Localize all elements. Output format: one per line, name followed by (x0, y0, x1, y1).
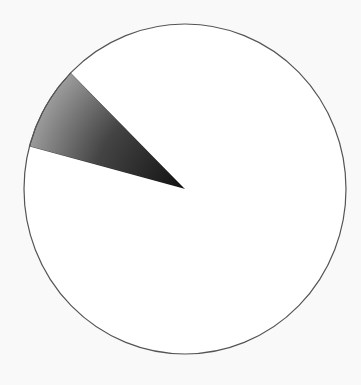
pie-slice-1 (24, 24, 346, 354)
pie-slices (24, 24, 346, 354)
pie-chart (0, 0, 361, 385)
